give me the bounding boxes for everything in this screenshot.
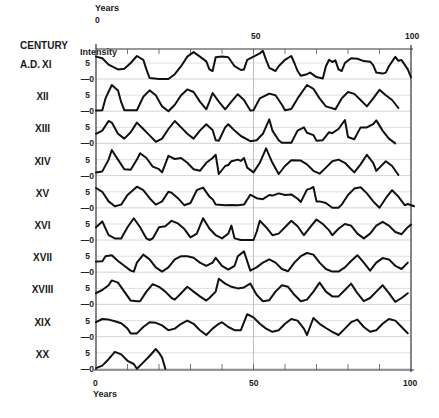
series-line-xiii — [96, 119, 395, 143]
y-tick-5: 5 — [85, 283, 90, 293]
y-tick-0: —0 — [81, 106, 95, 116]
y-tick-0: —0 — [81, 299, 95, 309]
bottom-tick-0: 0 — [93, 378, 98, 388]
series-line-xix — [96, 314, 408, 335]
y-tick-5: 5 — [85, 316, 90, 326]
y-tick-0: —0 — [81, 267, 95, 277]
y-tick-5: 5 — [85, 155, 90, 165]
y-tick-5: 5 — [85, 122, 90, 132]
y-tick-5: 5 — [85, 219, 90, 229]
y-tick-0: —0 — [81, 332, 95, 342]
y-tick-5: 5 — [85, 58, 90, 68]
series-line-xx — [96, 349, 165, 369]
y-tick-5: 5 — [85, 90, 90, 100]
y-tick-0: —0 — [81, 171, 95, 181]
y-tick-0: —0 — [81, 203, 95, 213]
y-tick-0: —0 — [81, 74, 95, 84]
y-tick-5: 5 — [85, 251, 90, 261]
y-tick-5: 5 — [85, 187, 90, 197]
series-line-xviii — [96, 279, 408, 302]
intensity-chart: 5—05—05—05—05—05—05—05—05—05—0 — [0, 0, 439, 418]
y-tick-5: 5 — [85, 348, 90, 358]
series-line-xvii — [96, 251, 408, 271]
bottom-tick-100: 100 — [403, 378, 417, 388]
series-line-xii — [96, 85, 398, 111]
bottom-tick-50: 50 — [249, 378, 258, 388]
y-tick-0: —0 — [81, 235, 95, 245]
series-line-xv — [96, 187, 414, 208]
y-tick-0: —0 — [81, 138, 95, 148]
bottom-years-label: Years — [93, 389, 117, 399]
series-line-xiv — [96, 148, 398, 175]
y-tick-0: —0 — [81, 364, 95, 374]
